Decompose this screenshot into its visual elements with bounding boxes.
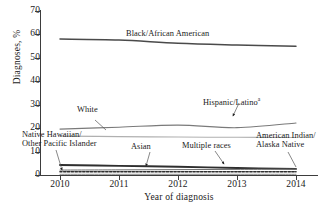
label-american-indian-alaska-native: American Indian/ Alaska Native bbox=[256, 131, 316, 149]
label-white: White bbox=[77, 105, 98, 114]
label-hispanic-latino-text: Hispanic/Latino bbox=[203, 98, 258, 107]
label-nhopi-line1: Native Hawaiian/ bbox=[22, 130, 97, 139]
series-line bbox=[60, 39, 296, 46]
leader-white bbox=[95, 120, 106, 130]
leader-multiple bbox=[215, 151, 224, 164]
leader-aian bbox=[288, 152, 296, 167]
label-hispanic-latino: Hispanic/Latinoa bbox=[203, 95, 260, 107]
label-aian-line1: American Indian/ bbox=[256, 131, 316, 140]
series-line bbox=[60, 123, 296, 129]
series-line bbox=[60, 165, 296, 169]
series-line bbox=[60, 169, 296, 170]
label-black-african-american: Black/African American bbox=[126, 29, 209, 38]
chart-container: Diagnoses, % 70 60 50 40 30 20 10 0 2010… bbox=[0, 0, 327, 208]
label-aian-line2: Alaska Native bbox=[256, 140, 316, 149]
label-nhopi-line2: Other Pacific Islander bbox=[22, 139, 97, 148]
label-asian: Asian bbox=[131, 142, 151, 151]
label-multiple-races: Multiple races bbox=[182, 141, 231, 150]
leader-asian bbox=[146, 152, 150, 166]
leader-nhopi bbox=[56, 150, 62, 170]
label-native-hawaiian-opi: Native Hawaiian/ Other Pacific Islander bbox=[22, 130, 97, 148]
footnote-marker-a: a bbox=[258, 96, 261, 102]
